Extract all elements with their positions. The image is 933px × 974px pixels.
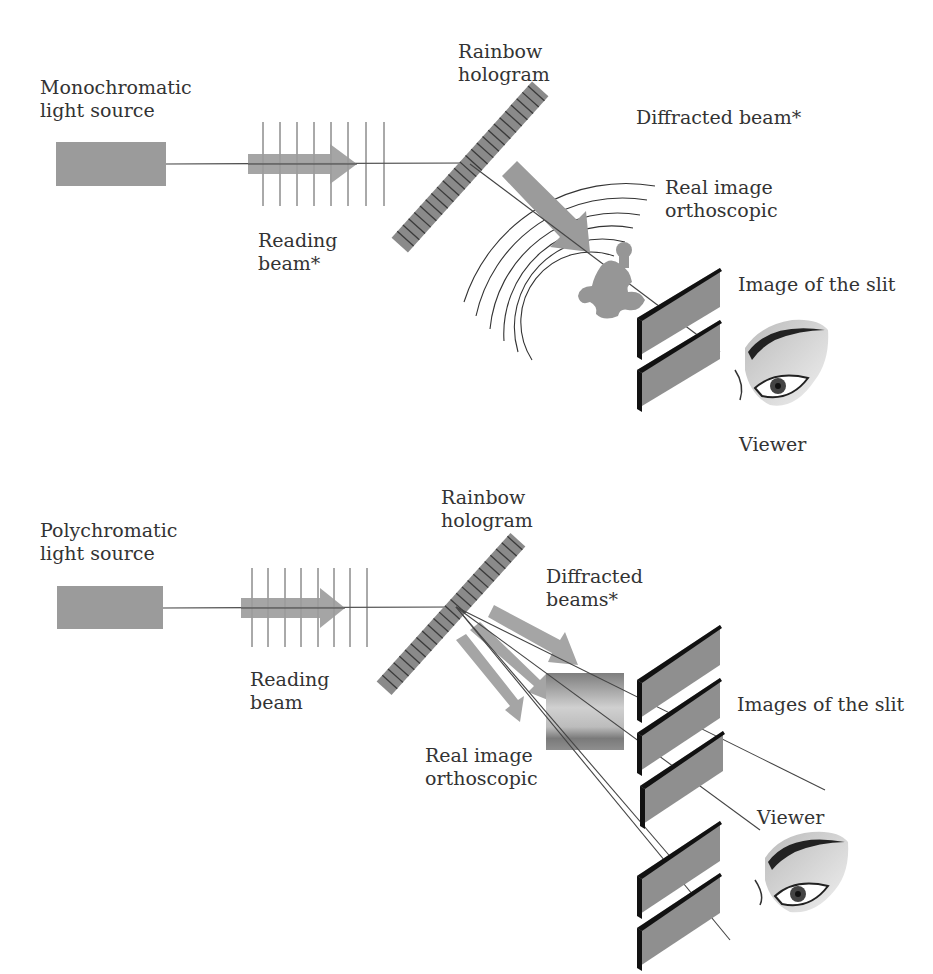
label-line: beam* (258, 252, 338, 275)
label-line: Reading (250, 668, 330, 691)
label-images-of-slit: Images of the slit (737, 693, 904, 716)
label-line: Diffracted beam* (636, 106, 801, 129)
label-line: Viewer (757, 806, 824, 829)
label-line: hologram (458, 63, 550, 86)
label-real-image-2: Real image orthoscopic (425, 744, 538, 790)
label-line: Reading (258, 229, 338, 252)
label-line: orthoscopic (425, 767, 538, 790)
label-line: Image of the slit (738, 273, 896, 296)
viewer-eye-icon (735, 320, 828, 406)
monochromatic-light-source (56, 142, 166, 186)
polychromatic-light-source (57, 586, 163, 629)
label-polychromatic-source: Polychromatic light source (40, 519, 177, 565)
label-line: Rainbow (458, 40, 550, 63)
label-viewer: Viewer (739, 433, 806, 456)
label-rainbow-hologram: Rainbow hologram (458, 40, 550, 86)
label-real-image: Real image orthoscopic (665, 176, 778, 222)
label-line: beams* (546, 588, 643, 611)
label-line: Viewer (739, 433, 806, 456)
label-line: beam (250, 691, 330, 714)
label-line: hologram (441, 509, 533, 532)
rainbow-hologram (392, 82, 549, 253)
label-reading-beam: Reading beam* (258, 229, 338, 275)
label-viewer-2: Viewer (757, 806, 824, 829)
viewer-eye-icon-2 (755, 832, 848, 913)
label-diffracted-beams: Diffracted beams* (546, 565, 643, 611)
label-line: Real image (425, 744, 538, 767)
label-line: Monochromatic (40, 76, 192, 99)
label-image-of-slit: Image of the slit (738, 273, 896, 296)
panel-monochromatic (56, 82, 828, 412)
label-line: Polychromatic (40, 519, 177, 542)
label-line: light source (40, 542, 177, 565)
label-line: Images of the slit (737, 693, 904, 716)
label-line: Real image (665, 176, 778, 199)
label-line: Diffracted (546, 565, 643, 588)
label-monochromatic-source: Monochromatic light source (40, 76, 192, 122)
label-line: Rainbow (441, 486, 533, 509)
label-line: light source (40, 99, 192, 122)
label-reading-beam-2: Reading beam (250, 668, 330, 714)
label-rainbow-hologram-2: Rainbow hologram (441, 486, 533, 532)
label-line: orthoscopic (665, 199, 778, 222)
label-diffracted-beam: Diffracted beam* (636, 106, 801, 129)
diffracted-beam-arrow (502, 161, 590, 252)
